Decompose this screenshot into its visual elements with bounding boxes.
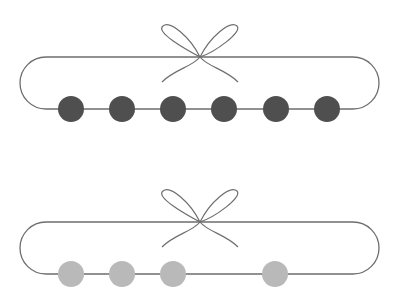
bead (314, 96, 340, 122)
necklace-bottom (20, 190, 379, 287)
bow-tail-left (162, 57, 200, 82)
bow-icon (162, 190, 238, 247)
bead (160, 261, 186, 287)
necklace-top (20, 25, 379, 122)
bead (160, 96, 186, 122)
bead (262, 261, 288, 287)
bow-loop-right (200, 25, 238, 57)
bead (58, 96, 84, 122)
bow-loop-right (200, 190, 238, 222)
bead (109, 261, 135, 287)
bead-necklace-diagram (0, 0, 405, 292)
bow-loop-left (162, 190, 200, 222)
bow-loop-left (162, 25, 200, 57)
bow-tail-right (200, 222, 238, 247)
bead (263, 96, 289, 122)
bead (58, 261, 84, 287)
bow-tail-left (162, 222, 200, 247)
bow-icon (162, 25, 238, 82)
bead (109, 96, 135, 122)
bead (211, 96, 237, 122)
bow-tail-right (200, 57, 238, 82)
